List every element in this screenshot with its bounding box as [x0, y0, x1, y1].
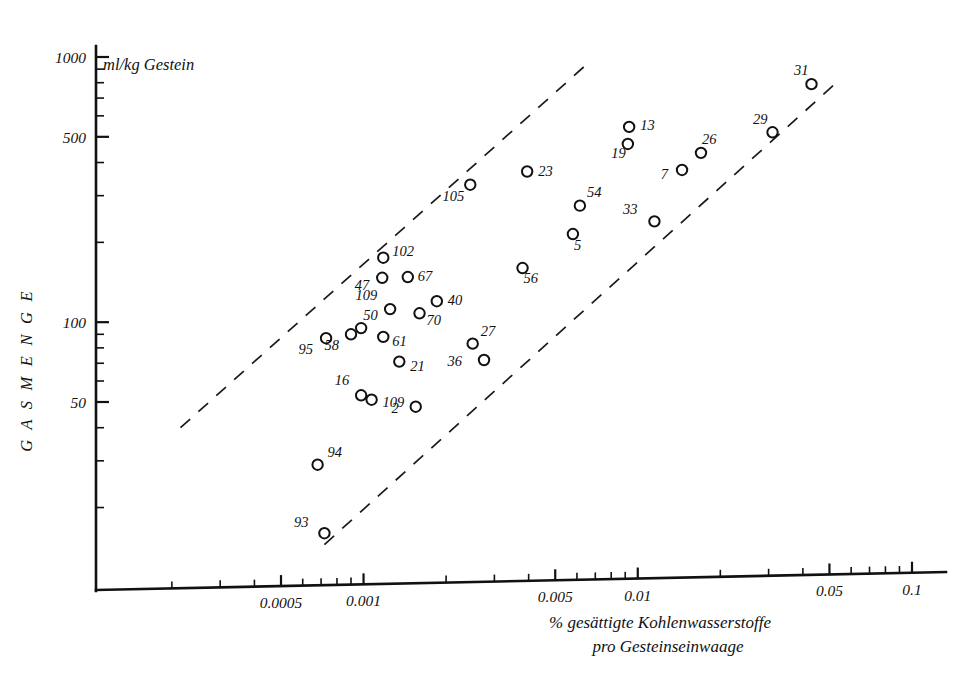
point-marker	[356, 323, 366, 333]
x-tick-label: 0.005	[538, 588, 573, 605]
point-marker	[403, 272, 413, 282]
point-label: 109	[383, 394, 406, 410]
point-marker	[394, 356, 404, 366]
data-point: 31	[793, 62, 817, 89]
point-label: 29	[753, 111, 768, 127]
point-label: 50	[363, 307, 378, 323]
point-marker	[677, 165, 687, 175]
data-point: 5	[568, 229, 581, 253]
x-tick-label: 0.01	[624, 587, 651, 604]
point-label: 27	[481, 323, 496, 339]
y-axis-unit-caption: ml/kg Gestein	[103, 55, 194, 74]
point-marker	[378, 332, 388, 342]
data-point: 109	[366, 394, 405, 410]
data-point: 16	[335, 372, 367, 400]
point-label: 19	[611, 145, 626, 161]
data-point: 27	[467, 323, 495, 349]
data-point: 7	[661, 165, 687, 182]
point-label: 56	[524, 270, 539, 286]
point-label: 16	[335, 372, 350, 388]
data-point: 54	[575, 184, 602, 211]
point-label: 47	[355, 277, 370, 293]
point-marker	[366, 395, 376, 405]
point-marker	[467, 338, 477, 348]
data-point: 33	[622, 201, 660, 226]
point-label: 13	[640, 117, 655, 133]
data-point: 56	[517, 263, 538, 286]
point-marker	[767, 127, 777, 137]
data-point: 29	[753, 111, 778, 137]
point-marker	[806, 79, 816, 89]
point-label: 5	[574, 237, 581, 253]
point-marker	[346, 329, 356, 339]
point-marker	[385, 304, 395, 314]
point-marker	[465, 179, 475, 189]
y-axis-title: G A S M E N G E	[17, 288, 36, 451]
data-point: 13	[624, 117, 655, 133]
point-label: 61	[392, 333, 407, 349]
trend-line-upper-boundary	[180, 63, 588, 428]
data-point: 40	[432, 292, 463, 308]
point-label: 54	[587, 184, 602, 200]
point-marker	[378, 253, 388, 263]
point-label: 21	[410, 358, 425, 374]
point-marker	[696, 148, 706, 158]
point-label: 93	[294, 514, 309, 530]
point-label: 33	[622, 201, 638, 217]
y-tick-label: 1000	[55, 49, 86, 66]
data-point: 67	[403, 268, 433, 284]
trend-line-lower-boundary	[324, 83, 836, 545]
scatter-plot-canvas: 100050010050 0.00050.0010.0050.010.050.1…	[0, 0, 958, 678]
data-point: 70	[414, 308, 441, 328]
data-point: 105	[443, 179, 476, 203]
data-point: 21	[394, 356, 425, 373]
data-point: 61	[378, 332, 407, 349]
data-point: 94	[312, 444, 342, 470]
data-point: 36	[447, 353, 490, 369]
chart-figure: 100050010050 0.00050.0010.0050.010.050.1…	[0, 0, 958, 678]
point-label: 36	[447, 353, 463, 369]
point-marker	[356, 390, 366, 400]
point-marker	[522, 166, 532, 176]
x-tick-label: 0.0005	[260, 594, 303, 611]
point-marker	[377, 273, 387, 283]
point-label: 67	[418, 268, 433, 284]
data-point: 23	[522, 163, 553, 179]
point-label: 70	[427, 312, 442, 328]
data-point: 58	[325, 329, 357, 353]
point-marker	[312, 460, 322, 470]
point-marker	[319, 528, 329, 538]
x-axis-label-line1: % gesättigte Kohlenwasserstoffe	[549, 613, 771, 632]
point-label: 31	[793, 62, 809, 78]
point-marker	[432, 296, 442, 306]
axes-group	[96, 46, 946, 591]
y-tick-label: 50	[71, 394, 87, 411]
point-marker	[479, 355, 489, 365]
point-label: 58	[325, 337, 340, 353]
y-axis-tick-labels: 100050010050	[55, 49, 86, 411]
data-points-group: 9394216109213695585061277010940476710256…	[294, 62, 817, 538]
data-point: 19	[611, 139, 633, 161]
x-axis-label-line2: pro Gesteinseinwaage	[592, 637, 744, 656]
point-marker	[575, 200, 585, 210]
y-tick-label: 500	[63, 129, 87, 146]
point-label: 94	[328, 444, 343, 460]
x-tick-label: 0.001	[346, 592, 381, 609]
trend-lines-group	[180, 63, 836, 545]
point-label: 105	[443, 188, 465, 204]
data-point: 93	[294, 514, 330, 538]
point-marker	[649, 216, 659, 226]
x-tick-label: 0.05	[816, 582, 843, 599]
point-label: 26	[702, 131, 717, 147]
point-label: 102	[392, 243, 414, 259]
point-label: 40	[448, 292, 463, 308]
point-label: 95	[299, 341, 314, 357]
data-point: 26	[696, 131, 717, 158]
x-tick-label: 0.1	[902, 581, 921, 598]
point-label: 7	[661, 166, 669, 182]
point-marker	[624, 122, 634, 132]
data-point: 50	[356, 307, 378, 333]
point-label: 23	[538, 163, 553, 179]
y-tick-label: 100	[63, 314, 87, 331]
point-marker	[411, 402, 421, 412]
